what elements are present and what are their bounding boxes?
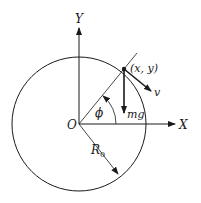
diagram-canvas: Y X O (x, y) v mg ϕ R0 bbox=[0, 0, 201, 203]
point-label: (x, y) bbox=[130, 62, 158, 75]
weight-label: mg bbox=[127, 108, 144, 121]
y-axis-label: Y bbox=[75, 12, 84, 26]
origin-label: O bbox=[67, 118, 77, 132]
x-axis-label: X bbox=[178, 118, 188, 132]
angle-label: ϕ bbox=[95, 106, 103, 120]
radius-label: R0 bbox=[90, 143, 105, 159]
velocity-label: v bbox=[154, 86, 161, 99]
particle-point bbox=[122, 67, 126, 71]
angle-arc bbox=[103, 96, 116, 124]
